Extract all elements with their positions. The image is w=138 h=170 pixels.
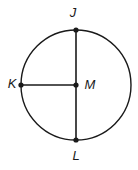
point-dot-k bbox=[18, 82, 23, 87]
point-label-j: J bbox=[69, 5, 77, 20]
point-label-k: K bbox=[8, 76, 18, 91]
point-label-l: L bbox=[72, 148, 79, 163]
circle-diagram-svg: J K M L bbox=[0, 0, 138, 170]
point-label-m: M bbox=[85, 77, 96, 92]
point-dot-j bbox=[73, 27, 78, 32]
point-dot-m bbox=[73, 82, 78, 87]
geometry-figure-canvas: J K M L bbox=[0, 0, 138, 170]
point-dot-l bbox=[73, 137, 78, 142]
